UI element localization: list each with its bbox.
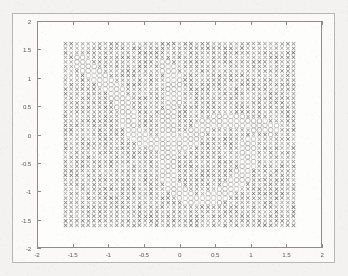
x-tick-label: -2 <box>34 251 39 258</box>
x-tick-label: -1.5 <box>68 251 78 258</box>
y-tick-label: 1.5 <box>0 46 31 53</box>
y-tick-label: -0.5 <box>0 159 31 166</box>
x-tick <box>322 244 323 248</box>
x-tick-label: -1 <box>106 251 111 258</box>
scatter-plot-figure: -2-1.5-1-0.500.511.52 -2-1.5-1-0.500.511… <box>0 0 348 276</box>
x-tick-top <box>251 21 252 25</box>
x-tick <box>180 244 181 248</box>
x-tick-top <box>286 21 287 25</box>
y-tick-label: -2 <box>0 245 31 252</box>
y-tick-label: 0 <box>0 131 31 138</box>
x-tick <box>73 244 74 248</box>
x-tick <box>144 244 145 248</box>
x-tick-top <box>73 21 74 25</box>
scatter-plot-canvas <box>37 21 322 248</box>
x-tick-label: 1 <box>249 251 252 258</box>
x-tick-label: 0.5 <box>211 251 219 258</box>
y-tick <box>37 220 41 221</box>
x-tick-label: 2 <box>320 251 323 258</box>
y-tick <box>37 135 41 136</box>
y-tick-label: -1.5 <box>0 216 31 223</box>
y-tick <box>37 21 41 22</box>
x-tick-label: 1.5 <box>282 251 290 258</box>
x-tick-label: -0.5 <box>139 251 149 258</box>
y-tick <box>37 248 41 249</box>
x-tick-top <box>144 21 145 25</box>
x-tick-top <box>215 21 216 25</box>
x-tick <box>215 244 216 248</box>
x-tick-top <box>322 21 323 25</box>
y-tick-label: -1 <box>0 188 31 195</box>
y-tick-label: 1 <box>0 74 31 81</box>
y-tick <box>37 49 41 50</box>
y-tick <box>37 163 41 164</box>
y-tick-label: 0.5 <box>0 103 31 110</box>
x-tick-label: 0 <box>178 251 181 258</box>
x-tick <box>286 244 287 248</box>
y-tick <box>37 191 41 192</box>
x-tick-top <box>108 21 109 25</box>
y-tick <box>37 78 41 79</box>
y-tick-label: 2 <box>0 18 31 25</box>
y-tick <box>37 106 41 107</box>
x-tick <box>108 244 109 248</box>
x-tick-top <box>180 21 181 25</box>
x-tick <box>251 244 252 248</box>
